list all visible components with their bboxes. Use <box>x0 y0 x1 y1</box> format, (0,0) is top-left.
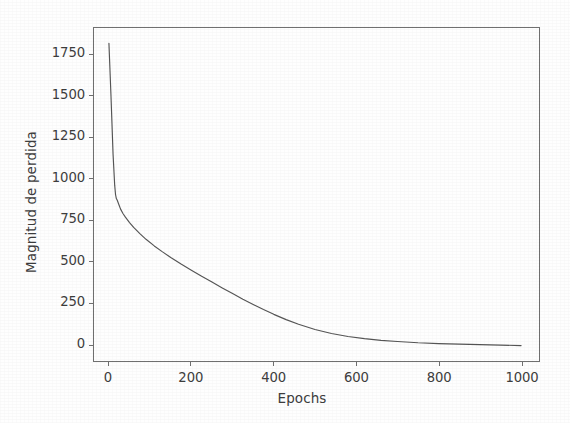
plot-area <box>93 27 540 362</box>
x-tick-mark <box>273 362 274 366</box>
x-tick-mark <box>439 362 440 366</box>
x-axis-label-text: Epochs <box>278 390 327 406</box>
x-tick-mark <box>108 362 109 366</box>
y-tick-label: 1000 <box>0 170 85 185</box>
x-tick-mark <box>522 362 523 366</box>
y-tick-label: 750 <box>0 211 85 226</box>
x-tick-label: 600 <box>344 370 369 385</box>
x-tick-label: 200 <box>178 370 203 385</box>
x-tick-mark <box>190 362 191 366</box>
y-tick-label: 0 <box>0 336 85 351</box>
x-tick-label: 0 <box>104 370 112 385</box>
x-tick-label: 800 <box>427 370 452 385</box>
y-tick-label: 250 <box>0 294 85 309</box>
x-axis-label: Epochs <box>0 390 570 406</box>
chart-figure: 02505007501000125015001750 0200400600800… <box>0 0 570 423</box>
x-tick-mark <box>356 362 357 366</box>
loss-curve-svg <box>94 28 539 361</box>
y-axis-label: Magnitud de perdida <box>23 92 39 312</box>
x-tick-label: 1000 <box>505 370 538 385</box>
y-tick-label: 500 <box>0 253 85 268</box>
loss-curve-line <box>109 43 521 345</box>
y-tick-label: 1750 <box>0 45 85 60</box>
y-tick-label: 1500 <box>0 87 85 102</box>
x-tick-label: 400 <box>261 370 286 385</box>
y-tick-label: 1250 <box>0 128 85 143</box>
